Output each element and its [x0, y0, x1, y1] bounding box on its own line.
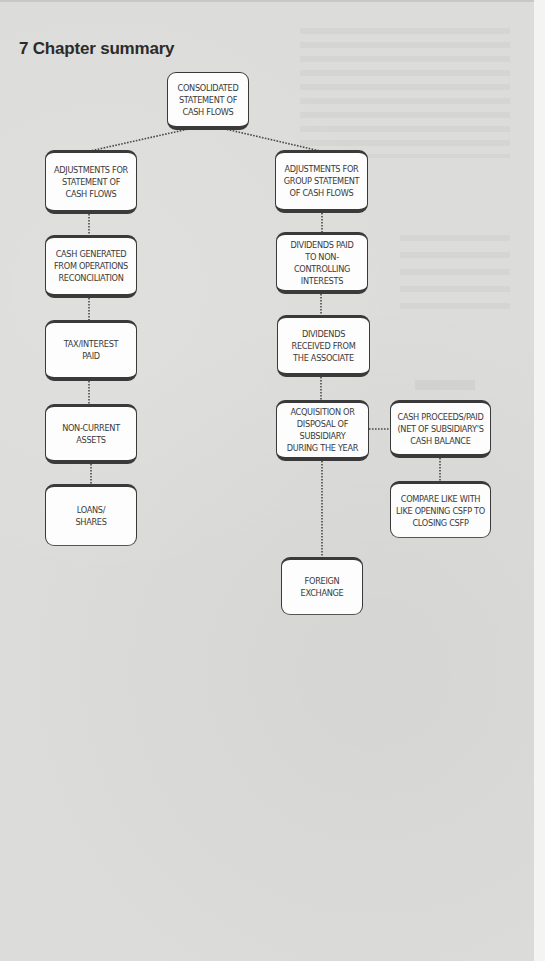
- node-adjustments-statement: ADJUSTMENTS FOR STATEMENT OF CASH FLOWS: [45, 150, 137, 214]
- node-loans-shares: LOANS/ SHARES: [45, 484, 137, 546]
- node-cash-generated: CASH GENERATED FROM OPERATIONS RECONCILI…: [45, 235, 137, 298]
- node-cash-proceeds: CASH PROCEEDS/PAID (NET OF SUBSIDIARY'S …: [390, 400, 491, 458]
- node-non-current-assets: NON-CURRENT ASSETS: [45, 404, 137, 464]
- section-title: 7 Chapter summary: [19, 39, 174, 59]
- node-consolidated-statement: CONSOLIDATED STATEMENT OF CASH FLOWS: [167, 72, 249, 130]
- node-label: CASH GENERATED FROM OPERATIONS RECONCILI…: [54, 248, 128, 284]
- page-top-edge: [0, 0, 534, 2]
- node-label: DIVIDENDS PAID TO NON- CONTROLLING INTER…: [291, 239, 354, 287]
- node-label: LOANS/ SHARES: [75, 504, 106, 528]
- node-dividends-nci: DIVIDENDS PAID TO NON- CONTROLLING INTER…: [276, 232, 368, 294]
- node-foreign-exchange: FOREIGN EXCHANGE: [281, 557, 363, 615]
- bleed-through-text: [400, 235, 510, 315]
- bleed-through-text: [415, 380, 475, 390]
- node-label: COMPARE LIKE WITH LIKE OPENING CSFP TO C…: [396, 493, 485, 529]
- node-label: DIVIDENDS RECEIVED FROM THE ASSOCIATE: [292, 328, 356, 364]
- node-label: ADJUSTMENTS FOR GROUP STATEMENT OF CASH …: [284, 163, 360, 199]
- node-dividends-associate: DIVIDENDS RECEIVED FROM THE ASSOCIATE: [277, 315, 370, 377]
- node-label: TAX/INTEREST PAID: [64, 338, 119, 362]
- node-adjustments-group: ADJUSTMENTS FOR GROUP STATEMENT OF CASH …: [275, 150, 368, 213]
- node-compare-csfp: COMPARE LIKE WITH LIKE OPENING CSFP TO C…: [390, 481, 491, 538]
- bleed-through-text: [300, 28, 510, 158]
- node-label: ADJUSTMENTS FOR STATEMENT OF CASH FLOWS: [54, 164, 128, 200]
- node-label: ACQUISITION OR DISPOSAL OF SUBSIDIARY DU…: [287, 406, 358, 454]
- node-label: CONSOLIDATED STATEMENT OF CASH FLOWS: [178, 82, 239, 118]
- node-label: FOREIGN EXCHANGE: [301, 575, 344, 599]
- node-label: NON-CURRENT ASSETS: [62, 422, 120, 446]
- node-tax-interest: TAX/INTEREST PAID: [45, 320, 137, 381]
- node-label: CASH PROCEEDS/PAID (NET OF SUBSIDIARY'S …: [397, 411, 483, 447]
- node-acquisition-disposal: ACQUISITION OR DISPOSAL OF SUBSIDIARY DU…: [276, 400, 369, 461]
